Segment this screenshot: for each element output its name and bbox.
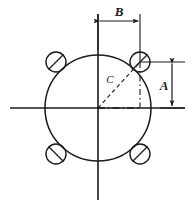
hole-lower-left <box>46 144 66 164</box>
hole-slash <box>133 147 148 162</box>
c-radius-label: C <box>106 73 114 85</box>
a-dimension: A <box>159 64 172 107</box>
construction-lines <box>98 62 140 108</box>
hole-upper-left <box>46 52 66 72</box>
radius-c-line <box>98 62 140 108</box>
drawing-canvas: B A C <box>0 0 196 206</box>
a-dimension-label: A <box>159 78 169 93</box>
hole-slash <box>49 55 64 70</box>
hole-lower-right <box>130 144 150 164</box>
b-dimension-label: B <box>114 4 124 19</box>
hole-slash <box>49 147 64 162</box>
b-dimension: B <box>100 4 139 21</box>
engineering-drawing: B A C <box>0 0 196 206</box>
